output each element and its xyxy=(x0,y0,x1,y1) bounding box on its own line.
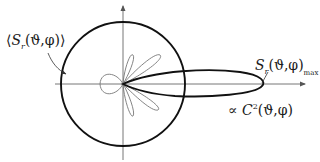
radiation-pattern-diagram: ⟨Sr(ϑ,φ)⟩ Sr(ϑ,φ)max ∝ C2(ϑ,φ) xyxy=(0,0,320,162)
average-label-subscript: r xyxy=(21,42,25,51)
lower-wide-lobe xyxy=(123,84,159,110)
average-label: ⟨Sr(ϑ,φ)⟩ xyxy=(6,33,66,47)
maximum-label-subscript: r xyxy=(265,67,269,76)
proportional-label-superscript: 2 xyxy=(253,102,258,111)
maximum-label-suffix: max xyxy=(304,69,319,77)
proportional-label-args: (ϑ,φ) xyxy=(258,102,293,118)
maximum-label-symbol: S xyxy=(255,57,265,73)
average-label-close-bracket: ⟩ xyxy=(60,32,65,48)
main-lobe xyxy=(123,70,263,96)
average-label-args: (ϑ,φ) xyxy=(25,32,60,48)
diagram-canvas xyxy=(0,0,320,162)
maximum-label: Sr(ϑ,φ)max xyxy=(255,58,318,72)
proportional-label: ∝ C2(ϑ,φ) xyxy=(228,103,293,117)
proportional-symbol: ∝ xyxy=(228,102,242,118)
maximum-label-args: (ϑ,φ) xyxy=(268,57,303,73)
proportional-label-symbol: C xyxy=(242,102,253,118)
average-label-symbol: S xyxy=(11,32,21,48)
